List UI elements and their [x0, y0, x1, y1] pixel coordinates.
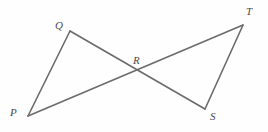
vertex-label-r: R	[133, 55, 140, 66]
vertex-label-p: P	[10, 107, 17, 118]
segment-pt	[28, 25, 243, 116]
figure-canvas	[0, 0, 268, 132]
vertex-label-q: Q	[55, 20, 63, 31]
segment-pq	[28, 31, 70, 116]
geometry-figure: P Q R S T	[0, 0, 268, 132]
vertex-label-t: T	[246, 6, 252, 17]
vertex-label-s: S	[210, 111, 216, 122]
segment-st	[205, 25, 243, 109]
